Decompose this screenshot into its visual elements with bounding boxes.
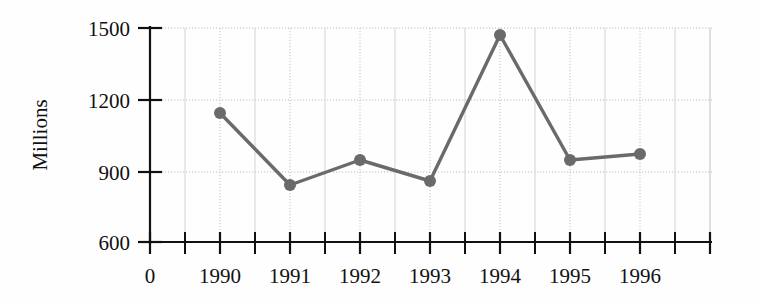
y-tick-label-1500: 1500: [88, 17, 130, 41]
data-point-1996: [634, 148, 646, 160]
y-axis-title: Millions: [28, 99, 52, 170]
x-tick-label-origin: 0: [145, 264, 156, 288]
line-chart-figure: 1500 1200 900 600 0 1990 1991 1992 1993 …: [0, 0, 758, 302]
x-tick-label-1991: 1991: [269, 264, 311, 288]
data-point-1995: [564, 154, 576, 166]
x-tick-label-1995: 1995: [549, 264, 591, 288]
data-point-1993: [424, 175, 436, 187]
chart-canvas: 1500 1200 900 600 0 1990 1991 1992 1993 …: [0, 0, 758, 302]
data-point-1992: [354, 154, 366, 166]
y-tick-label-900: 900: [99, 161, 131, 185]
data-point-1991: [284, 179, 296, 191]
data-point-1990: [214, 107, 226, 119]
x-tick-label-1993: 1993: [409, 264, 451, 288]
y-tick-label-600: 600: [99, 231, 131, 255]
data-point-1994: [494, 29, 506, 41]
x-tick-label-1996: 1996: [619, 264, 661, 288]
x-tick-label-1994: 1994: [479, 264, 522, 288]
x-tick-label-1990: 1990: [199, 264, 241, 288]
y-tick-label-1200: 1200: [88, 89, 130, 113]
x-tick-label-1992: 1992: [339, 264, 381, 288]
